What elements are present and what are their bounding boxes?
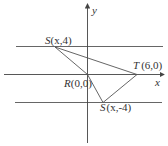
point-label-T: T(6,0) [133,59,163,72]
x-axis-label: x [154,76,160,88]
segment-T-to-S-bottom [103,75,137,103]
point-label-S-top: S(x,4) [45,34,72,47]
segment-S-top-to-T [55,47,137,75]
y-axis-label: y [91,4,97,16]
point-label-R: R(0,0) [63,77,92,90]
coordinate-diagram: y x S(x,4) R(0,0) T(6,0) S(x,-4) [0,0,168,146]
segment-S-top-to-R [55,47,88,75]
point-label-S-bottom: S(x,-4) [100,101,132,114]
